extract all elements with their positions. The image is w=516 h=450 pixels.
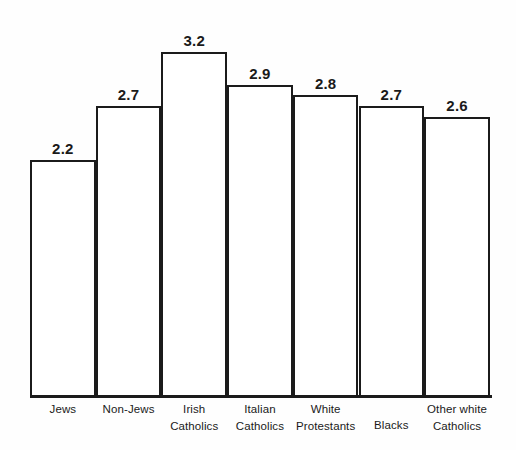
bar-value-label: 3.2 [161,33,227,49]
category-label-line: Catholics [161,418,227,435]
category-label-blacks: Blacks [359,417,425,434]
category-label-non-jews: Non-Jews [96,401,162,418]
bar-white-protestants [293,95,359,397]
category-axis-labels: Jews Non-Jews Irish Catholics Italian Ca… [30,401,490,447]
bar-irish-catholics [161,52,227,397]
bar-non-jews [96,106,162,397]
category-label-other-white-catholics: Other white Catholics [418,401,496,434]
category-label-jews: Jews [30,401,96,418]
category-label-white-protestants: White Protestants [293,401,359,434]
category-label-line: Jews [30,401,96,418]
bar-group-non-jews: 2.7 [96,20,162,397]
plot-area: 2.2 2.7 3.2 2.9 2.8 2.7 2. [30,20,490,397]
bar-italian-catholics [227,85,293,397]
category-label-italian-catholics: Italian Catholics [227,401,293,434]
bar-group-jews: 2.2 [30,20,96,397]
bar-jews [30,160,96,397]
category-label-line: White [293,401,359,418]
bar-value-label: 2.8 [293,76,359,92]
category-label-line: Catholics [227,418,293,435]
bar-group-blacks: 2.7 [359,20,425,397]
category-label-line: Other white [418,401,496,418]
bar-group-white-protestants: 2.8 [293,20,359,397]
bar-value-label: 2.9 [227,66,293,82]
bar-value-label: 2.2 [30,141,96,157]
bar-value-label: 2.7 [96,87,162,103]
category-label-line: Protestants [293,418,359,435]
bar-other-white-catholics [424,117,490,397]
bar-group-other-white-catholics: 2.6 [424,20,490,397]
category-label-line: Irish [161,401,227,418]
bar-group-irish-catholics: 3.2 [161,20,227,397]
x-axis-baseline [30,395,492,398]
bar-value-label: 2.6 [424,98,490,114]
category-label-line: Non-Jews [96,401,162,418]
category-label-line: Italian [227,401,293,418]
category-label-line: Catholics [418,418,496,435]
bar-blacks [359,106,425,397]
category-label-irish-catholics: Irish Catholics [161,401,227,434]
bar-chart-figure: 2.2 2.7 3.2 2.9 2.8 2.7 2. [0,0,516,450]
bar-group-italian-catholics: 2.9 [227,20,293,397]
category-label-line: Blacks [359,417,425,434]
bar-value-label: 2.7 [359,87,425,103]
